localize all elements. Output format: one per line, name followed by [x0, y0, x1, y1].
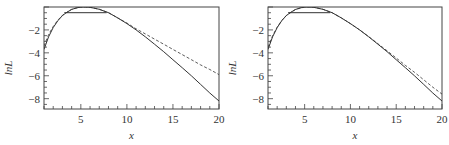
plot-frame	[268, 7, 442, 109]
y-tick-label: −6	[252, 70, 264, 82]
x-tick-label: 20	[437, 113, 449, 125]
y-tick-label: −8	[28, 93, 40, 105]
left-panel: 5101520−2−4−6−8xlnL	[2, 7, 225, 141]
x-tick-label: 5	[78, 113, 84, 125]
y-axis-title: lnL	[226, 61, 238, 76]
x-axis-title: x	[128, 129, 134, 141]
x-tick-label: 5	[302, 113, 308, 125]
y-tick-label: −4	[28, 47, 40, 59]
series-exact	[44, 7, 219, 101]
y-tick-label: −8	[252, 93, 264, 105]
series-approximation	[44, 7, 219, 75]
x-tick-label: 10	[121, 113, 133, 125]
series-exact	[268, 7, 442, 101]
series-approximation	[268, 7, 442, 94]
x-tick-label: 20	[214, 113, 226, 125]
chart-canvas: 5101520−2−4−6−8xlnL 5101520−2−4−6−8xlnL	[0, 0, 449, 145]
x-tick-label: 15	[391, 113, 403, 125]
x-axis-title: x	[352, 129, 358, 141]
x-tick-label: 10	[345, 113, 357, 125]
y-axis-title: lnL	[2, 61, 14, 76]
y-tick-label: −2	[252, 24, 264, 36]
plot-frame	[44, 7, 219, 109]
y-tick-label: −4	[252, 47, 264, 59]
y-tick-label: −2	[28, 24, 40, 36]
y-tick-label: −6	[28, 70, 40, 82]
right-panel: 5101520−2−4−6−8xlnL	[226, 7, 448, 141]
x-tick-label: 15	[167, 113, 179, 125]
